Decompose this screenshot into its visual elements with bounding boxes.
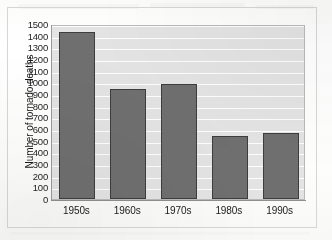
y-axis-tick-label: 1300: [4, 43, 48, 53]
bar-1970s: [161, 84, 197, 200]
y-axis-line: [51, 25, 52, 201]
x-axis-tick-label: 1970s: [153, 205, 204, 217]
bar-1960s: [110, 89, 146, 199]
y-axis-tick-label: 1200: [4, 55, 48, 65]
y-axis-tick-label: 200: [4, 172, 48, 182]
y-axis-tick-label: 1000: [4, 78, 48, 88]
x-axis-tick-label: 1980s: [203, 205, 254, 217]
bars-layer: [52, 26, 304, 199]
y-axis-tick-label: 0: [4, 195, 48, 205]
y-axis-tick-label: 900: [4, 90, 48, 100]
y-axis-tick-label: 800: [4, 102, 48, 112]
y-axis-tick-label: 100: [4, 183, 48, 193]
plot-area: [51, 25, 305, 200]
x-axis-tick-label: 1960s: [102, 205, 153, 217]
y-axis-tick-label: 700: [4, 113, 48, 123]
x-axis-line: [51, 200, 306, 201]
y-axis-tick-label: 600: [4, 125, 48, 135]
y-axis-tick-label: 300: [4, 160, 48, 170]
tornado-deaths-bar-chart: Number of tornado deaths 150014001300120…: [0, 0, 332, 240]
y-axis-tick-label: 1100: [4, 67, 48, 77]
y-axis-tick-label: 400: [4, 148, 48, 158]
bar-1990s: [263, 133, 299, 200]
y-axis-tick-label: 500: [4, 137, 48, 147]
bar-1980s: [212, 136, 248, 199]
x-axis-tick-label: 1950s: [51, 205, 102, 217]
bar-1950s: [59, 32, 95, 199]
y-axis-tick-labels: 1500140013001200110010009008007006005004…: [0, 0, 48, 240]
x-axis-tick-labels: 1950s1960s1970s1980s1990s: [51, 205, 305, 221]
y-axis-tick-label: 1400: [4, 32, 48, 42]
y-axis-tick-label: 1500: [4, 20, 48, 30]
x-axis-tick-label: 1990s: [254, 205, 305, 217]
